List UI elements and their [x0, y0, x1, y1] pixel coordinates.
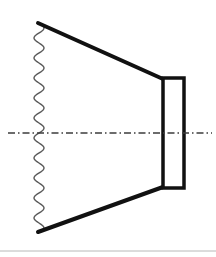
figure-canvas: Axisymmetric horn cross-section diagram …	[0, 0, 216, 257]
technical-diagram	[0, 0, 216, 257]
